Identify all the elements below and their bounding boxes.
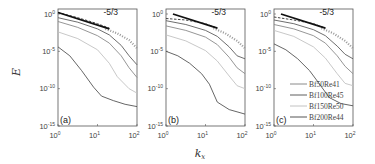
- y-tick-label: 10-15: [255, 121, 271, 131]
- series-line-bf200re44: [58, 47, 137, 107]
- panel-b: 10010-510-1010-15100101102-5/3(b): [147, 7, 247, 140]
- x-tick-label: 101: [197, 130, 208, 140]
- panel-label: (b): [168, 115, 179, 125]
- legend-entry: Bf50Re41: [309, 80, 340, 89]
- series-line-dotted: [321, 28, 353, 48]
- series-line-bf200re44: [166, 51, 245, 114]
- x-tick-label: 100: [157, 130, 168, 140]
- slope-reference-line: [58, 13, 109, 29]
- y-tick-label: 10-5: [258, 46, 271, 56]
- plot-frame: [58, 9, 137, 126]
- legend-entry: Bf150Re50: [309, 102, 344, 111]
- x-tick-label: 102: [128, 130, 139, 140]
- slope-label: -5/3: [319, 7, 334, 17]
- spectra-figure: 10010-510-1010-15100101102-5/3(a)10010-5…: [0, 0, 375, 164]
- plot-frame: [166, 9, 245, 126]
- x-tick-label: 102: [236, 130, 247, 140]
- panel-label: (c): [276, 115, 287, 125]
- y-tick-label: 100: [152, 9, 163, 19]
- slope-label: -5/3: [103, 7, 118, 17]
- y-tick-label: 10-15: [147, 121, 163, 131]
- x-tick-label: 102: [344, 130, 355, 140]
- y-tick-label: 100: [260, 9, 271, 19]
- y-tick-label: 10-15: [39, 121, 55, 131]
- legend-entry: Bf200Re44: [309, 113, 344, 122]
- series-line-bf100re45: [166, 21, 245, 59]
- y-tick-label: 100: [44, 9, 55, 19]
- series-line-bf100re45: [274, 20, 353, 59]
- x-tick-label: 100: [265, 130, 276, 140]
- x-tick-label: 101: [89, 130, 100, 140]
- series-line-bf150re50: [166, 35, 245, 89]
- y-tick-label: 10-5: [150, 46, 163, 56]
- panel-c: 10010-510-1010-15100101102-5/3(c)Bf50Re4…: [255, 7, 355, 140]
- series-line-bf150re50: [274, 30, 353, 85]
- y-tick-label: 10-5: [42, 46, 55, 56]
- y-tick-label: 10-10: [147, 83, 163, 93]
- x-tick-label: 100: [49, 130, 60, 140]
- legend-entry: Bf100Re45: [309, 91, 344, 100]
- series-line-bf50re41: [166, 26, 245, 74]
- panel-label: (a): [60, 115, 71, 125]
- y-tick-label: 10-10: [39, 83, 55, 93]
- y-axis-label: E: [10, 68, 23, 77]
- series-line-bf50re41: [274, 25, 353, 74]
- panel-a: 10010-510-1010-15100101102-5/3(a): [39, 7, 139, 140]
- y-tick-label: 10-10: [255, 83, 271, 93]
- x-tick-label: 101: [305, 130, 316, 140]
- x-axis-label: kx: [195, 147, 206, 161]
- slope-label: -5/3: [211, 7, 226, 17]
